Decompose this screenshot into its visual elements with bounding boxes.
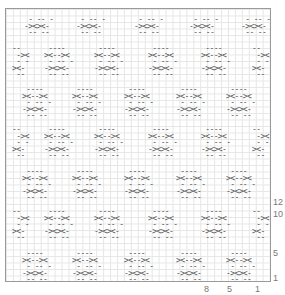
cable-motif: ---- ><-->< - -- - -><><- -- --	[44, 209, 74, 242]
cable-motif: ---- ><-->< - -- - -><><- -- --	[226, 251, 256, 284]
cable-motif: ---- ><-->< - -- - -><><- -- --	[124, 169, 154, 202]
cable-motif: - -- - -><><- -- --	[76, 17, 106, 37]
cable-motif: ---- ><-->< - -- - -><><- -- --	[94, 46, 124, 79]
row-number-label: 10	[273, 209, 283, 219]
cable-motif: ---- ><-->< - -- - -><><- -- --	[176, 169, 206, 202]
knitting-chart-grid: - -- - -><><- -- -- - -- - -><><- -- -- …	[5, 8, 271, 282]
cable-motif: ---- ><-->< - -- - -><><- -- --	[22, 169, 52, 202]
cable-motif: ---- ><-->< - -- - -><><- -- --	[226, 169, 256, 202]
cable-motif: ---- ><-->< - -- - -><><- -- --	[22, 251, 52, 284]
cable-motif: ---- ><-->< - -- - -><><- -- --	[201, 46, 231, 79]
column-number-label: 8	[204, 284, 209, 294]
row-number-label: 5	[273, 248, 278, 258]
cable-motif: -- ->< - - ><- --	[12, 209, 29, 242]
cable-motif: ---- ><-->< - -- - -><><- -- --	[22, 87, 52, 120]
cable-motif: -- ->< - - ><- --	[252, 127, 269, 160]
cable-motif: ---- ><-->< - -- - -><><- -- --	[148, 209, 178, 242]
row-number-label: 1	[273, 273, 278, 283]
cable-motif: - -- - -><><- -- --	[24, 17, 54, 37]
cable-motif: ---- ><-->< - -- - -><><- -- --	[72, 169, 102, 202]
cable-motif: ---- ><-->< - -- - -><><- -- --	[94, 127, 124, 160]
cable-motif: ---- ><-->< - -- - -><><- -- --	[72, 251, 102, 284]
cable-motif: ---- ><-->< - -- - -><><- -- --	[201, 209, 231, 242]
cable-motif: ---- ><-->< - -- - -><><- -- --	[226, 87, 256, 120]
cable-motif: ---- ><-->< - -- - -><><- -- --	[94, 209, 124, 242]
column-number-label: 5	[227, 284, 232, 294]
cable-motif: ---- ><-->< - -- - -><><- -- --	[176, 251, 206, 284]
cable-motif: ---- ><-->< - -- - -><><- -- --	[148, 46, 178, 79]
cable-motif: ---- ><-->< - -- - -><><- -- --	[176, 87, 206, 120]
cable-motif: ---- ><-->< - -- - -><><- -- --	[72, 87, 102, 120]
column-number-label: 1	[255, 284, 260, 294]
cable-motif: ---- ><-->< - -- - -><><- -- --	[124, 251, 154, 284]
cable-motif: ---- ><-->< - -- - -><><- -- --	[201, 127, 231, 160]
row-number-label: 12	[273, 197, 283, 207]
cable-motif: - -- - -><><- -- --	[241, 17, 271, 37]
cable-motif: ---- ><-->< - -- - -><><- -- --	[124, 87, 154, 120]
cable-motif: -- ->< - - ><- --	[12, 127, 29, 160]
cable-motif: ---- ><-->< - -- - -><><- -- --	[44, 46, 74, 79]
cable-motif: ---- ><-->< - -- - -><><- -- --	[44, 127, 74, 160]
cable-motif: -- ->< - - ><- --	[12, 46, 29, 79]
cable-motif: -- ->< - - ><- --	[252, 209, 269, 242]
cable-motif: ---- ><-->< - -- - -><><- -- --	[148, 127, 178, 160]
cable-motif: -- ->< - - ><- --	[252, 46, 269, 79]
cable-motif: - -- - -><><- -- --	[189, 17, 219, 37]
cable-motif: - -- - -><><- -- --	[134, 17, 164, 37]
